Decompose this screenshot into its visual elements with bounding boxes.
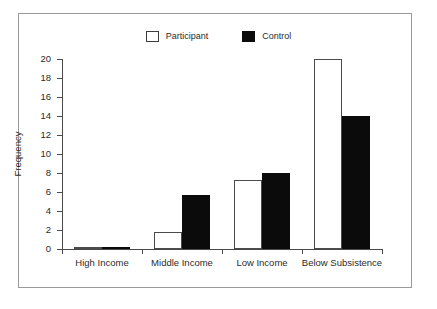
y-tick-mark <box>57 230 62 231</box>
y-tick-label: 4 <box>46 206 51 216</box>
x-tick-mark <box>142 249 143 254</box>
filled-square-swatch <box>242 31 255 42</box>
plot-area: Frequency 02468101214161820 High IncomeM… <box>62 59 382 249</box>
y-tick-label: 16 <box>40 92 51 102</box>
bar-control <box>342 116 370 249</box>
category-label: Middle Income <box>151 258 213 268</box>
y-tick-label: 14 <box>40 111 51 121</box>
y-tick-mark <box>57 192 62 193</box>
bar-control <box>262 173 290 249</box>
y-tick-mark <box>57 116 62 117</box>
bar-control <box>102 247 130 249</box>
bar-control <box>182 195 210 249</box>
x-tick-mark <box>302 249 303 254</box>
y-tick-label: 18 <box>40 73 51 83</box>
y-tick-label: 2 <box>46 225 51 235</box>
y-tick-label: 0 <box>46 244 51 254</box>
category-label: Low Income <box>236 258 287 268</box>
bar-chart-figure: Participant Control Frequency 0246810121… <box>0 0 437 309</box>
y-axis-title: Frequency <box>13 132 23 177</box>
y-tick-mark <box>57 59 62 60</box>
bar-participant <box>154 232 182 249</box>
y-tick-mark <box>57 97 62 98</box>
y-axis-spine <box>62 59 63 249</box>
y-tick-mark <box>57 211 62 212</box>
y-tick-label: 20 <box>40 54 51 64</box>
y-tick-label: 12 <box>40 130 51 140</box>
open-square-swatch <box>146 31 159 42</box>
y-tick-label: 8 <box>46 168 51 178</box>
legend-label-control: Control <box>262 32 291 41</box>
bar-participant <box>234 180 262 249</box>
category-label: Below Subsistence <box>302 258 382 268</box>
y-tick-mark <box>57 78 62 79</box>
y-tick-mark <box>57 173 62 174</box>
category-label: High Income <box>75 258 128 268</box>
y-tick-mark <box>57 154 62 155</box>
legend-label-participant: Participant <box>166 32 209 41</box>
y-tick-mark <box>57 135 62 136</box>
x-tick-mark <box>62 249 63 254</box>
bar-participant <box>314 59 342 249</box>
legend-entry-control: Control <box>242 31 291 42</box>
legend-entry-participant: Participant <box>146 31 209 42</box>
chart-legend: Participant Control <box>0 28 437 44</box>
bar-participant <box>74 247 102 249</box>
y-tick-label: 10 <box>40 149 51 159</box>
x-tick-mark <box>222 249 223 254</box>
x-tick-mark <box>382 249 383 254</box>
y-tick-label: 6 <box>46 187 51 197</box>
